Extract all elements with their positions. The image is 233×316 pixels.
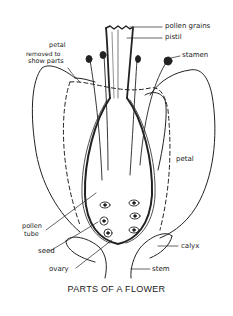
label-ovary: ovary	[49, 266, 69, 273]
flower-diagram	[0, 0, 233, 316]
calyx	[66, 237, 106, 278]
left-petal	[32, 66, 80, 232]
label-pistil: pistil	[165, 34, 182, 41]
label-petal-removed-1: petal	[49, 42, 65, 49]
label-calyx: calyx	[181, 243, 199, 250]
label-petal-removed-2: removed to	[26, 50, 61, 57]
removed-petal-outline	[63, 82, 80, 225]
ovary-wall	[85, 98, 152, 244]
right-petal	[150, 70, 215, 238]
label-petal: petal	[176, 156, 194, 163]
label-pollen-grains: pollen grains	[165, 23, 210, 30]
label-petal-removed-3: show parts	[28, 58, 64, 65]
seeds	[99, 200, 140, 237]
diagram-title: PARTS OF A FLOWER	[0, 284, 233, 294]
label-seed: seed	[38, 248, 55, 255]
label-pollen-tube-1: pollen	[22, 223, 42, 230]
label-stamen: stamen	[182, 52, 208, 59]
label-pollen-tube-2: tube	[24, 231, 39, 238]
label-stem: stem	[152, 266, 170, 273]
